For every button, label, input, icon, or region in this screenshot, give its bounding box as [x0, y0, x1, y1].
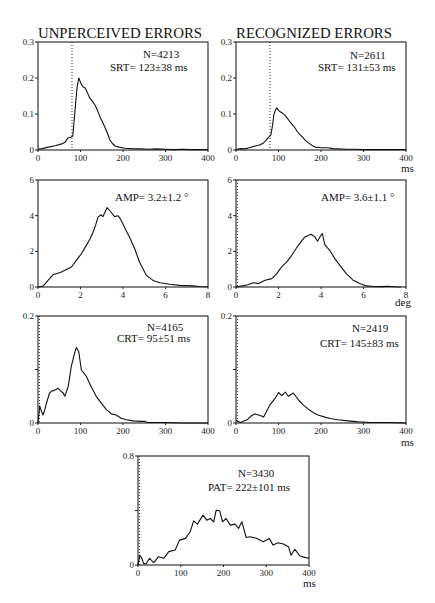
- x-tick-label: 8: [206, 290, 211, 300]
- distribution-curve: [236, 392, 406, 423]
- y-tick-label: 0: [30, 282, 35, 292]
- x-unit-label: deg: [395, 296, 411, 308]
- x-unit-label: ms: [401, 162, 414, 174]
- x-tick-label: 0: [234, 153, 239, 163]
- x-tick-label: 0: [36, 290, 41, 300]
- figure: UNPERCEIVED ERRORS RECOGNIZED ERRORS 00.…: [0, 0, 435, 603]
- stat-annotation: CRT= 95±51 ms: [117, 332, 190, 344]
- stat-annotation: N=3430: [238, 467, 275, 479]
- stat-annotation: CRT= 145±83 ms: [320, 337, 399, 349]
- y-tick-label: 0.2: [221, 73, 232, 83]
- panel-unperceived-srt: 00.10.20.30100200300400N=4213SRT= 123±38…: [23, 37, 216, 163]
- panel-unperceived-crt: 00.20100200300400N=4165CRT= 95±51 ms: [23, 311, 216, 436]
- x-unit-label: ms: [401, 436, 414, 448]
- y-tick-label: 6: [228, 175, 233, 185]
- y-tick-label: 0.3: [23, 37, 35, 47]
- x-tick-label: 0: [36, 426, 41, 436]
- stat-annotation: PAT= 222±101 ms: [208, 481, 290, 493]
- distribution-curve: [138, 510, 309, 565]
- stat-annotation: N=4213: [143, 48, 180, 60]
- x-tick-label: 400: [201, 153, 215, 163]
- x-tick-label: 200: [116, 426, 130, 436]
- x-tick-label: 200: [217, 568, 231, 578]
- panel-recognized-crt: 00.20100200300400N=2419CRT= 145±83 msms: [221, 311, 414, 448]
- x-tick-label: 2: [78, 290, 83, 300]
- x-tick-label: 300: [159, 426, 173, 436]
- y-tick-label: 0.2: [23, 311, 34, 321]
- panel-recognized-srt: 00.10.20.30100200300400N=2611SRT= 131±53…: [221, 37, 414, 174]
- stat-annotation: SRT= 131±53 ms: [318, 61, 396, 73]
- stat-annotation: AMP= 3.6±1.1 °: [321, 191, 394, 203]
- x-tick-label: 300: [357, 426, 371, 436]
- column-title-unperceived: UNPERCEIVED ERRORS: [38, 25, 202, 41]
- x-tick-label: 2: [276, 290, 281, 300]
- y-tick-label: 0: [228, 145, 233, 155]
- plot-frame: [138, 456, 309, 565]
- x-tick-label: 300: [260, 568, 274, 578]
- y-tick-label: 0.2: [23, 73, 34, 83]
- x-tick-label: 4: [319, 290, 324, 300]
- x-tick-label: 0: [234, 426, 239, 436]
- x-tick-label: 4: [121, 290, 126, 300]
- panel-unperceived-amp: 024602468AMP= 3.2±1.2 °: [30, 175, 211, 300]
- x-tick-label: 400: [399, 426, 413, 436]
- x-tick-label: 100: [272, 153, 286, 163]
- y-tick-label: 0: [228, 418, 233, 428]
- y-tick-label: 0: [30, 145, 35, 155]
- y-tick-label: 0.1: [23, 109, 34, 119]
- y-tick-label: 4: [228, 211, 233, 221]
- y-tick-label: 0.2: [221, 311, 232, 321]
- x-tick-label: 300: [357, 153, 371, 163]
- x-tick-label: 200: [116, 153, 130, 163]
- panel-pat: 00.80100200300400N=3430PAT= 222±101 msms: [123, 451, 317, 589]
- x-tick-label: 0: [36, 153, 41, 163]
- x-tick-label: 100: [74, 153, 88, 163]
- y-tick-label: 0.3: [221, 37, 233, 47]
- stat-annotation: N=2611: [350, 49, 386, 61]
- distribution-curve: [38, 78, 208, 150]
- x-tick-label: 200: [314, 153, 328, 163]
- y-tick-label: 0.8: [123, 451, 135, 461]
- distribution-curve: [38, 208, 208, 288]
- plot-frame: [38, 42, 208, 150]
- distribution-curve: [38, 348, 208, 423]
- stat-annotation: AMP= 3.2±1.2 °: [115, 191, 188, 203]
- x-tick-label: 0: [234, 290, 239, 300]
- x-tick-label: 200: [314, 426, 328, 436]
- distribution-curve: [236, 234, 401, 288]
- stat-annotation: N=2419: [352, 322, 389, 334]
- x-tick-label: 300: [159, 153, 173, 163]
- y-tick-label: 0: [130, 560, 135, 570]
- x-tick-label: 400: [201, 426, 215, 436]
- x-tick-label: 6: [361, 290, 366, 300]
- y-tick-label: 0: [228, 282, 233, 292]
- column-title-recognized: RECOGNIZED ERRORS: [236, 25, 392, 41]
- x-tick-label: 100: [174, 568, 188, 578]
- distribution-curve: [236, 108, 406, 150]
- y-tick-label: 2: [228, 246, 233, 256]
- x-tick-label: 100: [74, 426, 88, 436]
- stat-annotation: SRT= 123±38 ms: [110, 61, 188, 73]
- panels: 00.10.20.30100200300400N=4213SRT= 123±38…: [23, 37, 414, 589]
- y-tick-label: 0: [30, 418, 35, 428]
- x-unit-label: ms: [303, 577, 316, 589]
- y-tick-label: 6: [30, 175, 35, 185]
- y-tick-label: 2: [30, 246, 35, 256]
- x-tick-label: 6: [163, 290, 168, 300]
- y-tick-label: 0.1: [221, 109, 232, 119]
- panel-recognized-amp: 024602468AMP= 3.6±1.1 °deg: [228, 175, 412, 308]
- y-tick-label: 4: [30, 211, 35, 221]
- x-tick-label: 0: [136, 568, 141, 578]
- x-tick-label: 100: [272, 426, 286, 436]
